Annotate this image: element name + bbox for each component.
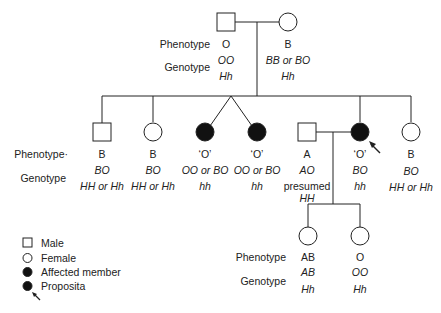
- gen1-phenotype-label: Phenotype: [130, 38, 210, 50]
- gen2-daughter-phenotype: B: [149, 148, 156, 160]
- gen1-mother-genotype-h: Hh: [281, 70, 294, 82]
- gen2-daughter-genotype-abo: BO: [145, 164, 160, 176]
- gen2-twin1-genotype-h: hh: [199, 180, 211, 192]
- gen2-spouse-genotype-note: presumed: [284, 180, 331, 192]
- twin-line-left: [210, 96, 231, 126]
- gen3-daughter1-genotype-h: Hh: [301, 283, 314, 295]
- gen2-twin2-phenotype: ‘O’: [251, 148, 264, 160]
- gen3-genotype-label: Genotype: [200, 275, 286, 287]
- gen2-proposita-genotype-h: hh: [354, 180, 366, 192]
- gen2-son-genotype-h: HH or Hh: [80, 180, 124, 192]
- gen2-twin1-phenotype: ‘O’: [199, 148, 212, 160]
- gen2-sister-genotype-abo: BO: [403, 165, 418, 177]
- proposita-arrow-icon: [369, 141, 380, 153]
- gen1-father-genotype-abo: OO: [218, 54, 234, 66]
- gen2-twin1-filled-circle-icon: [196, 123, 214, 141]
- gen2-sister-genotype-h: HH or Hh: [389, 181, 433, 193]
- gen2-twin2-genotype-abo: OO or BO: [234, 164, 281, 176]
- gen1-mother-phenotype: B: [284, 38, 291, 50]
- gen2-genotype-label: Genotype: [0, 172, 66, 184]
- gen1-father-square-icon: [217, 13, 235, 31]
- gen2-spouse-genotype-h: HH: [299, 192, 314, 204]
- gen1-mother-circle-icon: [279, 13, 297, 31]
- legend-female-label: Female: [41, 252, 76, 264]
- gen2-twin2-filled-circle-icon: [248, 123, 266, 141]
- pedigree-diagram: Phenotype Genotype O OO Hh B BB or BO Hh…: [0, 0, 441, 313]
- gen2-proposita-phenotype: ‘O’: [354, 148, 367, 160]
- legend-filled-circle-icon: [23, 268, 32, 277]
- legend-affected-label: Affected member: [41, 266, 121, 278]
- gen3-daughter2-genotype-h: Hh: [353, 283, 366, 295]
- gen1-genotype-label: Genotype: [130, 61, 210, 73]
- legend-circle-icon: [23, 254, 32, 263]
- gen3-phenotype-label: Phenotype: [200, 251, 286, 263]
- gen3-daughter1-phenotype: AB: [301, 251, 315, 263]
- gen3-daughter2-phenotype: O: [356, 251, 364, 263]
- gen3-daughter1-circle-icon: [299, 227, 317, 245]
- gen3-daughter1-genotype-abo: AB: [301, 266, 315, 278]
- gen2-twin1-genotype-abo: OO or BO: [182, 164, 229, 176]
- gen2-daughter-circle-icon: [144, 123, 162, 141]
- gen1-father-genotype-h: Hh: [219, 70, 232, 82]
- gen2-phenotype-label: Phenotype·: [0, 148, 68, 160]
- legend-proposita-arrow-icon: [32, 292, 40, 300]
- gen2-twin2-genotype-h: hh: [251, 180, 263, 192]
- gen3-daughter2-genotype-abo: OO: [352, 266, 368, 278]
- gen2-spouse-phenotype: A: [303, 148, 310, 160]
- gen1-father-phenotype: O: [222, 38, 230, 50]
- legend-proposita-circle-icon: [23, 282, 32, 291]
- twin-line-right: [231, 96, 252, 126]
- legend-square-icon: [23, 238, 32, 247]
- gen2-son-phenotype: B: [98, 148, 105, 160]
- gen1-mother-genotype-abo: BB or BO: [266, 54, 310, 66]
- legend-proposita-label: Proposita: [41, 280, 85, 292]
- gen2-proposita-filled-circle-icon: [351, 123, 369, 141]
- gen2-sister-phenotype: B: [407, 148, 414, 160]
- gen2-spouse-square-icon: [298, 123, 316, 141]
- gen2-spouse-genotype-abo: AO: [299, 164, 314, 176]
- gen2-son-genotype-abo: BO: [94, 164, 109, 176]
- legend-male-label: Male: [41, 237, 64, 249]
- gen3-daughter2-circle-icon: [351, 227, 369, 245]
- gen2-daughter-genotype-h: HH or Hh: [131, 180, 175, 192]
- gen2-proposita-genotype-abo: BO: [352, 164, 367, 176]
- gen2-sister-circle-icon: [402, 123, 420, 141]
- gen2-son-square-icon: [93, 123, 111, 141]
